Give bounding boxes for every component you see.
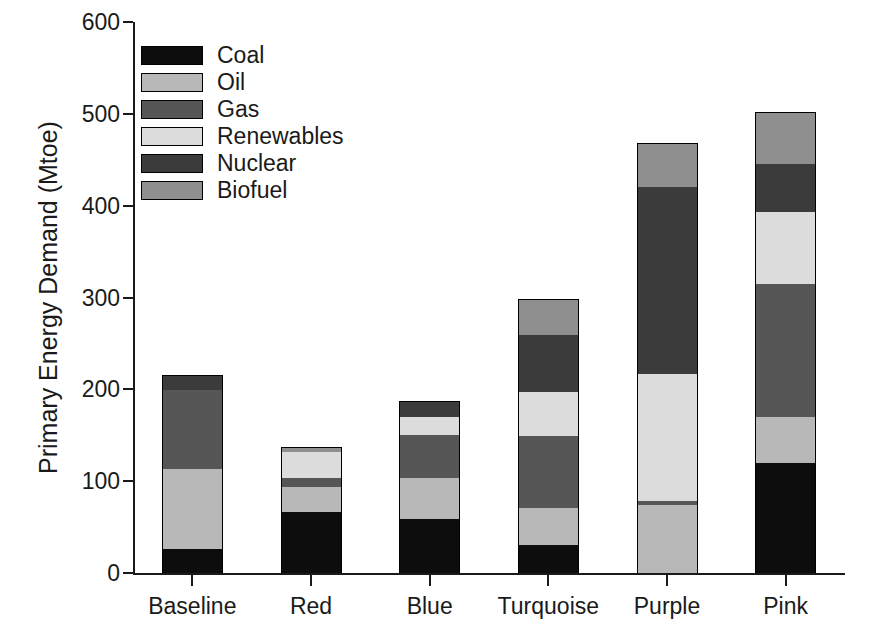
bar-segment-purple-nuclear[interactable]: [637, 187, 698, 373]
bar-segment-blue-coal[interactable]: [399, 519, 460, 573]
legend-label: Gas: [217, 98, 259, 121]
bar-purple[interactable]: [637, 143, 698, 573]
legend-label: Nuclear: [217, 152, 296, 175]
y-tick-label: 200: [82, 376, 120, 403]
bar-segment-blue-renewables[interactable]: [399, 417, 460, 435]
y-axis-ticks: 0100200300400500600: [0, 22, 133, 573]
legend-label: Coal: [217, 44, 264, 67]
bar-segment-purple-biofuel[interactable]: [637, 143, 698, 187]
bar-segment-red-gas[interactable]: [281, 478, 342, 487]
bar-segment-baseline-gas[interactable]: [162, 390, 223, 469]
bar-red[interactable]: [281, 447, 342, 573]
y-tick-label: 300: [82, 285, 120, 312]
bar-segment-red-biofuel[interactable]: [281, 447, 342, 452]
bar-segment-blue-nuclear[interactable]: [399, 401, 460, 417]
legend-swatch-gas: [141, 100, 203, 119]
bar-segment-turquoise-renewables[interactable]: [518, 392, 579, 436]
legend-item-biofuel[interactable]: Biofuel: [141, 178, 344, 203]
y-tick-mark: [123, 572, 133, 574]
legend-label: Renewables: [217, 125, 344, 148]
x-tick-label: Pink: [763, 593, 808, 620]
bar-segment-red-renewables[interactable]: [281, 452, 342, 478]
y-tick-label: 0: [107, 560, 120, 587]
bar-segment-purple-gas[interactable]: [637, 501, 698, 505]
bar-segment-baseline-oil[interactable]: [162, 469, 223, 549]
x-axis-ticks: BaselineRedBlueTurquoisePurplePink: [133, 575, 845, 635]
bar-segment-baseline-nuclear[interactable]: [162, 375, 223, 391]
x-tick-mark: [666, 575, 668, 586]
bar-segment-pink-biofuel[interactable]: [755, 112, 816, 164]
x-tick-mark: [429, 575, 431, 586]
bar-segment-pink-gas[interactable]: [755, 284, 816, 417]
y-tick-mark: [123, 388, 133, 390]
bar-segment-purple-renewables[interactable]: [637, 374, 698, 502]
legend-swatch-renewables: [141, 127, 203, 146]
legend-label: Oil: [217, 71, 245, 94]
y-tick-label: 500: [82, 101, 120, 128]
bar-segment-blue-gas[interactable]: [399, 435, 460, 478]
bar-segment-red-oil[interactable]: [281, 487, 342, 513]
bar-segment-blue-oil[interactable]: [399, 478, 460, 518]
bar-segment-pink-renewables[interactable]: [755, 212, 816, 284]
x-tick-label: Baseline: [148, 593, 236, 620]
legend-swatch-coal: [141, 46, 203, 65]
legend-item-coal[interactable]: Coal: [141, 43, 344, 68]
y-tick-mark: [123, 21, 133, 23]
bar-segment-pink-oil[interactable]: [755, 417, 816, 463]
y-tick-mark: [123, 480, 133, 482]
x-tick-mark: [310, 575, 312, 586]
legend-item-gas[interactable]: Gas: [141, 97, 344, 122]
legend-item-renewables[interactable]: Renewables: [141, 124, 344, 149]
bar-turquoise[interactable]: [518, 299, 579, 573]
x-tick-mark: [191, 575, 193, 586]
legend-swatch-oil: [141, 73, 203, 92]
legend-swatch-biofuel: [141, 181, 203, 200]
x-tick-mark: [547, 575, 549, 586]
bar-segment-pink-nuclear[interactable]: [755, 164, 816, 212]
bar-pink[interactable]: [755, 112, 816, 573]
bar-segment-turquoise-nuclear[interactable]: [518, 335, 579, 392]
bar-baseline[interactable]: [162, 375, 223, 573]
y-tick-mark: [123, 113, 133, 115]
y-tick-mark: [123, 205, 133, 207]
bar-segment-purple-oil[interactable]: [637, 505, 698, 573]
legend-item-nuclear[interactable]: Nuclear: [141, 151, 344, 176]
x-tick-label: Blue: [407, 593, 453, 620]
legend-item-oil[interactable]: Oil: [141, 70, 344, 95]
bar-blue[interactable]: [399, 401, 460, 573]
legend-label: Biofuel: [217, 179, 287, 202]
legend-swatch-nuclear: [141, 154, 203, 173]
y-tick-label: 100: [82, 468, 120, 495]
x-tick-label: Turquoise: [498, 593, 599, 620]
bar-segment-pink-coal[interactable]: [755, 463, 816, 573]
y-tick-label: 400: [82, 193, 120, 220]
bar-segment-turquoise-coal[interactable]: [518, 545, 579, 573]
y-tick-mark: [123, 297, 133, 299]
energy-demand-stacked-bar-chart: Primary Energy Demand (Mtoe) 01002003004…: [0, 0, 870, 638]
bar-segment-red-coal[interactable]: [281, 512, 342, 573]
bar-segment-baseline-coal[interactable]: [162, 549, 223, 573]
bar-segment-turquoise-biofuel[interactable]: [518, 299, 579, 335]
y-tick-label: 600: [82, 9, 120, 36]
x-tick-label: Purple: [634, 593, 700, 620]
x-tick-label: Red: [290, 593, 332, 620]
x-tick-mark: [785, 575, 787, 586]
bar-segment-turquoise-oil[interactable]: [518, 508, 579, 545]
chart-legend: CoalOilGasRenewablesNuclearBiofuel: [141, 43, 344, 205]
bar-segment-turquoise-gas[interactable]: [518, 436, 579, 508]
